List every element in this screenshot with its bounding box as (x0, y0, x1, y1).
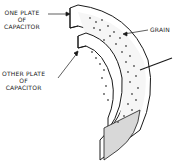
label-other-plate: OTHER PLATE OF CAPACITOR (2, 70, 45, 91)
label-grain: GRAIN (150, 26, 170, 33)
label-one-plate: ONE PLATE OF CAPACITOR (4, 9, 40, 30)
capacitor-diagram: ONE PLATE OF CAPACITOR OTHER PLATE OF CA… (0, 0, 177, 167)
